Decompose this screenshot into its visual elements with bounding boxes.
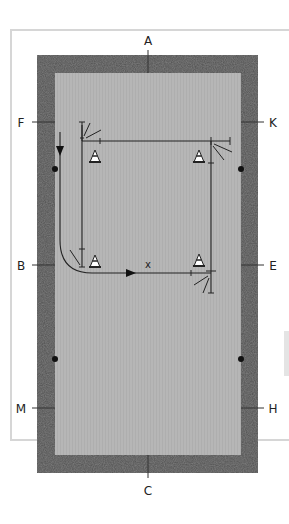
letter-c: C bbox=[144, 484, 152, 498]
letter-a: A bbox=[144, 34, 153, 48]
letter-f: F bbox=[18, 116, 25, 130]
center-x-marker: x bbox=[145, 259, 151, 270]
letter-k: K bbox=[269, 116, 278, 130]
letter-m: M bbox=[16, 402, 26, 416]
arena-diagram: A C F B M K E H x bbox=[0, 0, 289, 524]
track-dot bbox=[52, 356, 58, 362]
track-dot bbox=[238, 166, 244, 172]
track-dot bbox=[52, 166, 58, 172]
track-dot bbox=[238, 356, 244, 362]
letter-b: B bbox=[17, 259, 25, 273]
letter-e: E bbox=[269, 259, 277, 273]
letter-h: H bbox=[268, 402, 277, 416]
